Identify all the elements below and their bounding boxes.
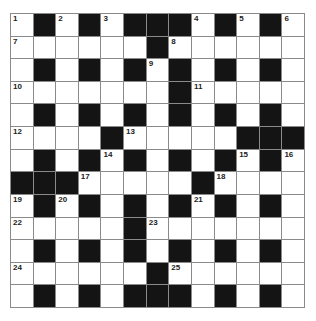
grid-cell[interactable]: 22 xyxy=(11,218,33,240)
grid-cell[interactable] xyxy=(56,82,78,104)
grid-cell[interactable]: 6 xyxy=(282,14,304,36)
grid-cell[interactable] xyxy=(147,240,169,262)
grid-cell[interactable] xyxy=(282,37,304,59)
grid-cell[interactable] xyxy=(237,37,259,59)
grid-cell[interactable] xyxy=(192,285,214,307)
grid-cell[interactable] xyxy=(192,218,214,240)
grid-cell[interactable]: 14 xyxy=(101,150,123,172)
grid-cell[interactable]: 19 xyxy=(11,195,33,217)
grid-cell[interactable] xyxy=(192,104,214,126)
grid-cell[interactable] xyxy=(11,59,33,81)
grid-cell[interactable] xyxy=(56,104,78,126)
grid-cell[interactable]: 2 xyxy=(56,14,78,36)
grid-cell[interactable] xyxy=(169,218,191,240)
grid-cell[interactable] xyxy=(56,218,78,240)
grid-cell[interactable] xyxy=(11,104,33,126)
grid-cell[interactable] xyxy=(237,263,259,285)
grid-cell[interactable] xyxy=(215,127,237,149)
grid-cell[interactable] xyxy=(260,37,282,59)
grid-cell[interactable] xyxy=(34,263,56,285)
grid-cell[interactable] xyxy=(192,127,214,149)
grid-cell[interactable] xyxy=(56,150,78,172)
grid-cell[interactable] xyxy=(11,285,33,307)
grid-cell[interactable] xyxy=(282,285,304,307)
grid-cell[interactable] xyxy=(56,37,78,59)
grid-cell[interactable] xyxy=(79,263,101,285)
grid-cell[interactable] xyxy=(169,172,191,194)
grid-cell[interactable] xyxy=(79,82,101,104)
grid-cell[interactable] xyxy=(282,104,304,126)
grid-cell[interactable] xyxy=(147,104,169,126)
grid-cell[interactable] xyxy=(124,263,146,285)
grid-cell[interactable] xyxy=(56,59,78,81)
grid-cell[interactable]: 23 xyxy=(147,218,169,240)
grid-cell[interactable]: 21 xyxy=(192,195,214,217)
grid-cell[interactable] xyxy=(260,218,282,240)
grid-cell[interactable]: 16 xyxy=(282,150,304,172)
grid-cell[interactable] xyxy=(260,82,282,104)
grid-cell[interactable] xyxy=(282,240,304,262)
grid-cell[interactable] xyxy=(215,37,237,59)
grid-cell[interactable]: 9 xyxy=(147,59,169,81)
grid-cell[interactable] xyxy=(79,218,101,240)
grid-cell[interactable] xyxy=(237,195,259,217)
grid-cell[interactable] xyxy=(237,59,259,81)
grid-cell[interactable] xyxy=(282,59,304,81)
grid-cell[interactable] xyxy=(147,127,169,149)
grid-cell[interactable]: 11 xyxy=(192,82,214,104)
grid-cell[interactable] xyxy=(192,263,214,285)
grid-cell[interactable] xyxy=(215,82,237,104)
grid-cell[interactable] xyxy=(101,285,123,307)
grid-cell[interactable] xyxy=(101,263,123,285)
grid-cell[interactable] xyxy=(260,263,282,285)
grid-cell[interactable] xyxy=(237,240,259,262)
grid-cell[interactable] xyxy=(282,172,304,194)
grid-cell[interactable] xyxy=(192,150,214,172)
grid-cell[interactable]: 10 xyxy=(11,82,33,104)
grid-cell[interactable] xyxy=(282,218,304,240)
grid-cell[interactable] xyxy=(237,285,259,307)
grid-cell[interactable]: 20 xyxy=(56,195,78,217)
grid-cell[interactable]: 17 xyxy=(79,172,101,194)
grid-cell[interactable] xyxy=(101,59,123,81)
grid-cell[interactable] xyxy=(237,218,259,240)
grid-cell[interactable] xyxy=(101,195,123,217)
grid-cell[interactable]: 4 xyxy=(192,14,214,36)
grid-cell[interactable]: 18 xyxy=(215,172,237,194)
grid-cell[interactable] xyxy=(124,82,146,104)
grid-cell[interactable] xyxy=(56,127,78,149)
grid-cell[interactable] xyxy=(237,104,259,126)
grid-cell[interactable] xyxy=(237,82,259,104)
grid-cell[interactable] xyxy=(101,82,123,104)
grid-cell[interactable] xyxy=(79,127,101,149)
grid-cell[interactable] xyxy=(147,172,169,194)
grid-cell[interactable]: 1 xyxy=(11,14,33,36)
grid-cell[interactable] xyxy=(124,172,146,194)
grid-cell[interactable] xyxy=(192,37,214,59)
grid-cell[interactable]: 25 xyxy=(169,263,191,285)
grid-cell[interactable]: 8 xyxy=(169,37,191,59)
grid-cell[interactable] xyxy=(237,172,259,194)
grid-cell[interactable] xyxy=(215,218,237,240)
grid-cell[interactable]: 15 xyxy=(237,150,259,172)
grid-cell[interactable] xyxy=(282,82,304,104)
grid-cell[interactable] xyxy=(192,240,214,262)
grid-cell[interactable] xyxy=(147,150,169,172)
grid-cell[interactable] xyxy=(56,285,78,307)
grid-cell[interactable] xyxy=(101,240,123,262)
grid-cell[interactable] xyxy=(101,104,123,126)
grid-cell[interactable] xyxy=(215,263,237,285)
grid-cell[interactable] xyxy=(34,37,56,59)
grid-cell[interactable] xyxy=(282,263,304,285)
grid-cell[interactable] xyxy=(147,82,169,104)
grid-cell[interactable] xyxy=(11,150,33,172)
grid-cell[interactable]: 3 xyxy=(101,14,123,36)
grid-cell[interactable] xyxy=(192,59,214,81)
grid-cell[interactable] xyxy=(147,195,169,217)
grid-cell[interactable] xyxy=(11,240,33,262)
grid-cell[interactable] xyxy=(260,172,282,194)
grid-cell[interactable] xyxy=(56,240,78,262)
grid-cell[interactable] xyxy=(34,82,56,104)
grid-cell[interactable] xyxy=(282,195,304,217)
grid-cell[interactable]: 12 xyxy=(11,127,33,149)
